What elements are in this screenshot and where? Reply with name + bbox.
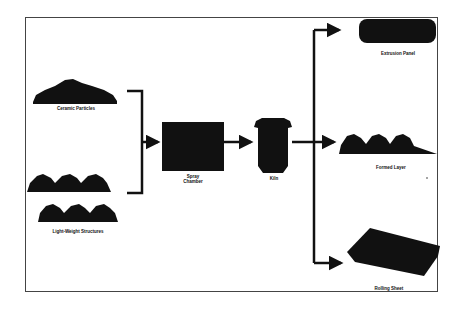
label-stage-1-line-2: Chamber xyxy=(173,179,213,184)
label-output-2: Formed Layer xyxy=(366,165,416,170)
label-input-1: Ceramic Particles xyxy=(42,106,110,111)
input-bracket xyxy=(127,91,158,193)
output-rounded-slab-icon xyxy=(359,19,436,43)
output-corrugated-icon xyxy=(339,134,437,154)
stage-pot-icon xyxy=(254,118,292,173)
input-corrugated-icon xyxy=(27,174,118,222)
output-distributor xyxy=(292,30,341,263)
output-tilted-slab-icon xyxy=(347,228,440,276)
label-output-1: Extrusion Panel xyxy=(370,51,426,56)
label-input-2: Light-Weight Structures xyxy=(44,229,112,234)
stray-dot xyxy=(426,177,428,179)
label-output-3: Rolling Sheet xyxy=(364,286,414,291)
stage-box-icon xyxy=(162,122,224,171)
process-diagram xyxy=(0,0,460,309)
input-mound-icon xyxy=(33,79,117,104)
label-stage-2: Kiln xyxy=(259,176,289,181)
